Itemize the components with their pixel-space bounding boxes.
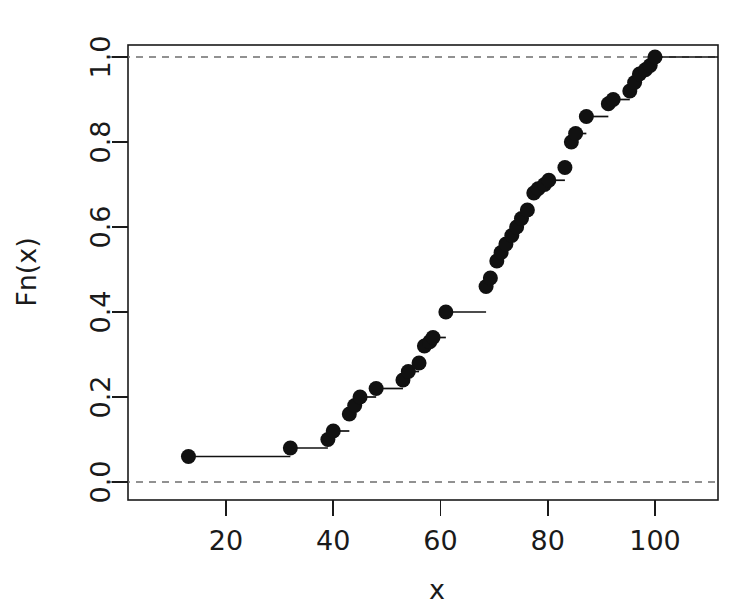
x-axis-tick-labels: 20406080100 [209, 525, 681, 556]
x-tick-label-80: 80 [531, 525, 565, 556]
ecdf-point [606, 92, 621, 107]
ecdf-point [579, 109, 594, 124]
ecdf-point [648, 50, 663, 65]
ecdf-point [520, 203, 535, 218]
ecdf-plot-svg: 20406080100 0.00.20.40.60.81.0 x Fn(x) [0, 0, 744, 614]
x-axis-ticks [226, 500, 655, 516]
ecdf-point [541, 173, 556, 188]
y-axis-title: Fn(x) [11, 237, 42, 307]
ecdf-point [326, 424, 341, 439]
ecdf-data-points [181, 50, 663, 465]
y-tick-label-0.4: 0.4 [85, 291, 116, 334]
y-axis-tick-labels: 0.00.20.40.60.81.0 [85, 36, 116, 504]
ecdf-point [412, 356, 427, 371]
ecdf-point [369, 381, 384, 396]
x-tick-label-60: 60 [423, 525, 457, 556]
y-tick-label-0.6: 0.6 [85, 206, 116, 249]
ecdf-point [483, 271, 498, 286]
y-tick-label-0.2: 0.2 [85, 376, 116, 419]
ecdf-point [283, 441, 298, 456]
x-tick-label-20: 20 [209, 525, 243, 556]
ecdf-step-segments [188, 57, 718, 457]
y-tick-label-0: 0.0 [85, 461, 116, 504]
y-tick-label-0.8: 0.8 [85, 121, 116, 164]
plot-frame [128, 45, 718, 500]
ecdf-point [425, 330, 440, 345]
x-tick-label-40: 40 [316, 525, 350, 556]
reference-dashed-lines [110, 57, 718, 482]
ecdf-point [181, 449, 196, 464]
ecdf-point [568, 126, 583, 141]
ecdf-point [353, 390, 368, 405]
y-tick-label-1: 1.0 [85, 36, 116, 79]
ecdf-point [438, 305, 453, 320]
ecdf-point [557, 160, 572, 175]
x-tick-label-100: 100 [629, 525, 681, 556]
ecdf-figure: 20406080100 0.00.20.40.60.81.0 x Fn(x) [0, 0, 744, 614]
x-axis-title: x [429, 574, 445, 605]
